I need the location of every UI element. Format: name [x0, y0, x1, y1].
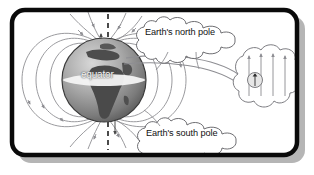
diagram-stage: Earth's north pole Earth's south pole eq…	[0, 0, 314, 175]
earth-magnetic-field-diagram	[0, 0, 314, 175]
earth-globe	[62, 38, 146, 122]
compass-icon	[248, 73, 263, 88]
